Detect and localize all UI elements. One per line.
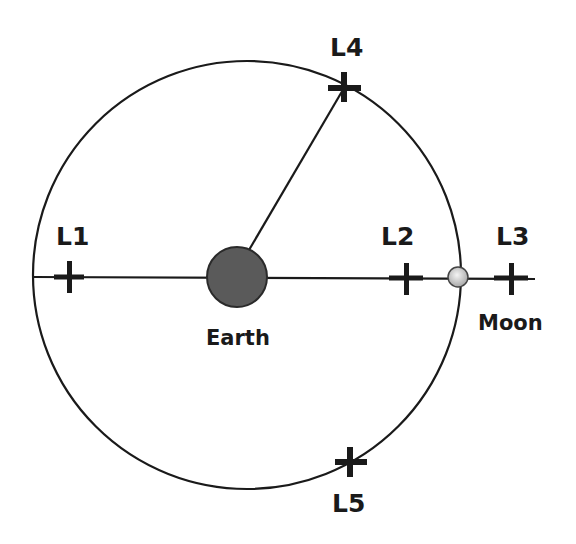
l4-marker-icon — [328, 72, 361, 102]
l1-marker-icon — [54, 261, 84, 293]
earth-l4-line — [249, 88, 344, 250]
label-l4: L4 — [330, 33, 363, 62]
lagrange-diagram: L1 L2 L3 L4 L5 Earth Moon — [0, 0, 576, 544]
label-l3: L3 — [496, 222, 529, 251]
label-l1: L1 — [56, 222, 89, 251]
earth-body — [207, 247, 267, 307]
label-l5: L5 — [332, 489, 365, 518]
l3-marker-icon — [494, 263, 528, 295]
moon-body — [448, 267, 468, 287]
label-moon: Moon — [478, 311, 543, 335]
label-l2: L2 — [381, 222, 414, 251]
label-earth: Earth — [206, 326, 270, 350]
l5-marker-icon — [335, 447, 367, 477]
l2-marker-icon — [389, 263, 423, 295]
